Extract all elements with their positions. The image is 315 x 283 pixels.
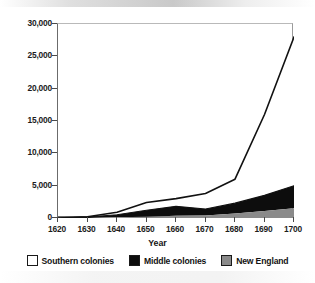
y-tick-label: 15,000 — [28, 115, 52, 125]
plot-area — [57, 23, 293, 217]
x-tick-mark — [87, 217, 88, 222]
y-tick-label: 25,000 — [28, 50, 52, 60]
x-tick-label: 1680 — [225, 224, 243, 234]
chart-legend: Southern coloniesMiddle coloniesNew Engl… — [0, 255, 315, 266]
y-tick-label: 5,000 — [32, 180, 52, 190]
x-tick-mark — [264, 217, 265, 222]
x-tick-mark — [205, 217, 206, 222]
stacked-area-plot — [58, 24, 294, 218]
x-tick-mark — [234, 217, 235, 222]
legend-label: Southern colonies — [42, 256, 114, 266]
x-axis-title: Year — [0, 238, 315, 248]
x-tick-mark — [57, 217, 58, 222]
legend-label: New England — [236, 256, 288, 266]
x-tick-label: 1630 — [78, 224, 96, 234]
x-tick-label: 1670 — [196, 224, 214, 234]
x-tick-mark — [293, 217, 294, 222]
scan-artifact-bottom — [0, 271, 315, 283]
legend-label: Middle colonies — [144, 256, 206, 266]
y-tick-label: 0 — [48, 212, 52, 222]
x-tick-label: 1650 — [137, 224, 155, 234]
x-tick-label: 1660 — [166, 224, 184, 234]
legend-swatch — [129, 255, 140, 266]
y-tick-label: 10,000 — [28, 147, 52, 157]
chart-page: 05,00010,00015,00020,00025,00030,000 162… — [0, 0, 315, 283]
y-tick-label: 20,000 — [28, 83, 52, 93]
legend-swatch — [27, 255, 38, 266]
x-tick-mark — [116, 217, 117, 222]
legend-swatch — [221, 255, 232, 266]
legend-item[interactable]: Middle colonies — [129, 255, 206, 266]
y-tick-label: 30,000 — [28, 18, 52, 28]
x-tick-label: 1620 — [48, 224, 66, 234]
x-tick-label: 1700 — [284, 224, 302, 234]
legend-item[interactable]: New England — [221, 255, 288, 266]
scan-artifact-top — [0, 0, 315, 7]
x-tick-mark — [146, 217, 147, 222]
x-tick-mark — [175, 217, 176, 222]
x-tick-label: 1640 — [107, 224, 125, 234]
legend-item[interactable]: Southern colonies — [27, 255, 114, 266]
x-tick-label: 1690 — [255, 224, 273, 234]
